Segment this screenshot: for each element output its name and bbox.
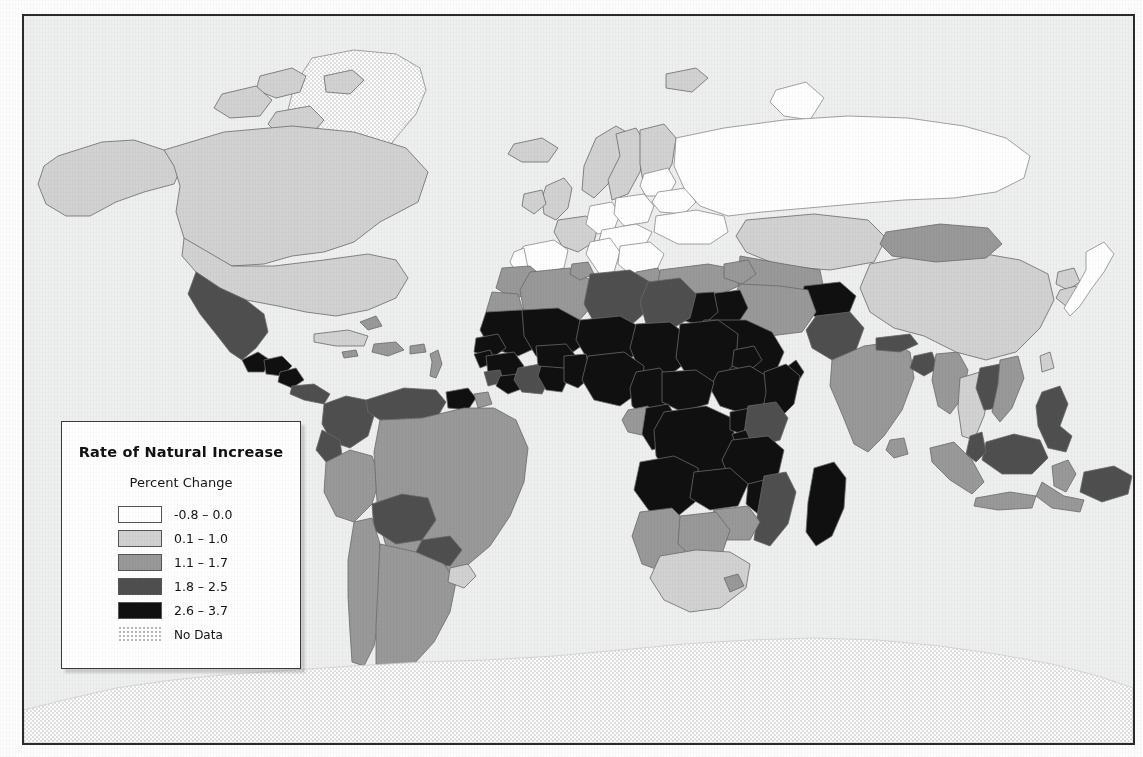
scanned-page: Rate of Natural Increase Percent Change … — [0, 0, 1143, 757]
region-puerto-rico[interactable] — [410, 344, 426, 354]
legend-swatch — [118, 530, 162, 547]
region-poland[interactable] — [614, 194, 654, 226]
legend-swatch — [118, 506, 162, 523]
legend-label: 1.8 – 2.5 — [174, 579, 228, 594]
legend-swatch — [118, 602, 162, 619]
legend-label: 2.6 – 3.7 — [174, 603, 228, 618]
legend-row: 1.1 – 1.7 — [118, 551, 300, 574]
legend-label: 1.1 – 1.7 — [174, 555, 228, 570]
legend-subtitle: Percent Change — [62, 475, 300, 490]
legend-row: 2.6 – 3.7 — [118, 599, 300, 622]
legend-row: 0.1 – 1.0 — [118, 527, 300, 550]
legend-row: -0.8 – 0.0 — [118, 503, 300, 526]
legend-item-list: -0.8 – 0.00.1 – 1.01.1 – 1.71.8 – 2.52.6… — [62, 503, 300, 646]
legend-swatch — [118, 578, 162, 595]
legend-title: Rate of Natural Increase — [62, 444, 300, 460]
legend-swatch — [118, 626, 162, 643]
legend-swatch — [118, 554, 162, 571]
legend-row: No Data — [118, 623, 300, 646]
legend-label: -0.8 – 0.0 — [174, 507, 232, 522]
legend-label: No Data — [174, 628, 223, 642]
map-frame: Rate of Natural Increase Percent Change … — [22, 14, 1135, 745]
legend-label: 0.1 – 1.0 — [174, 531, 228, 546]
legend-row: 1.8 – 2.5 — [118, 575, 300, 598]
map-legend: Rate of Natural Increase Percent Change … — [61, 421, 301, 669]
